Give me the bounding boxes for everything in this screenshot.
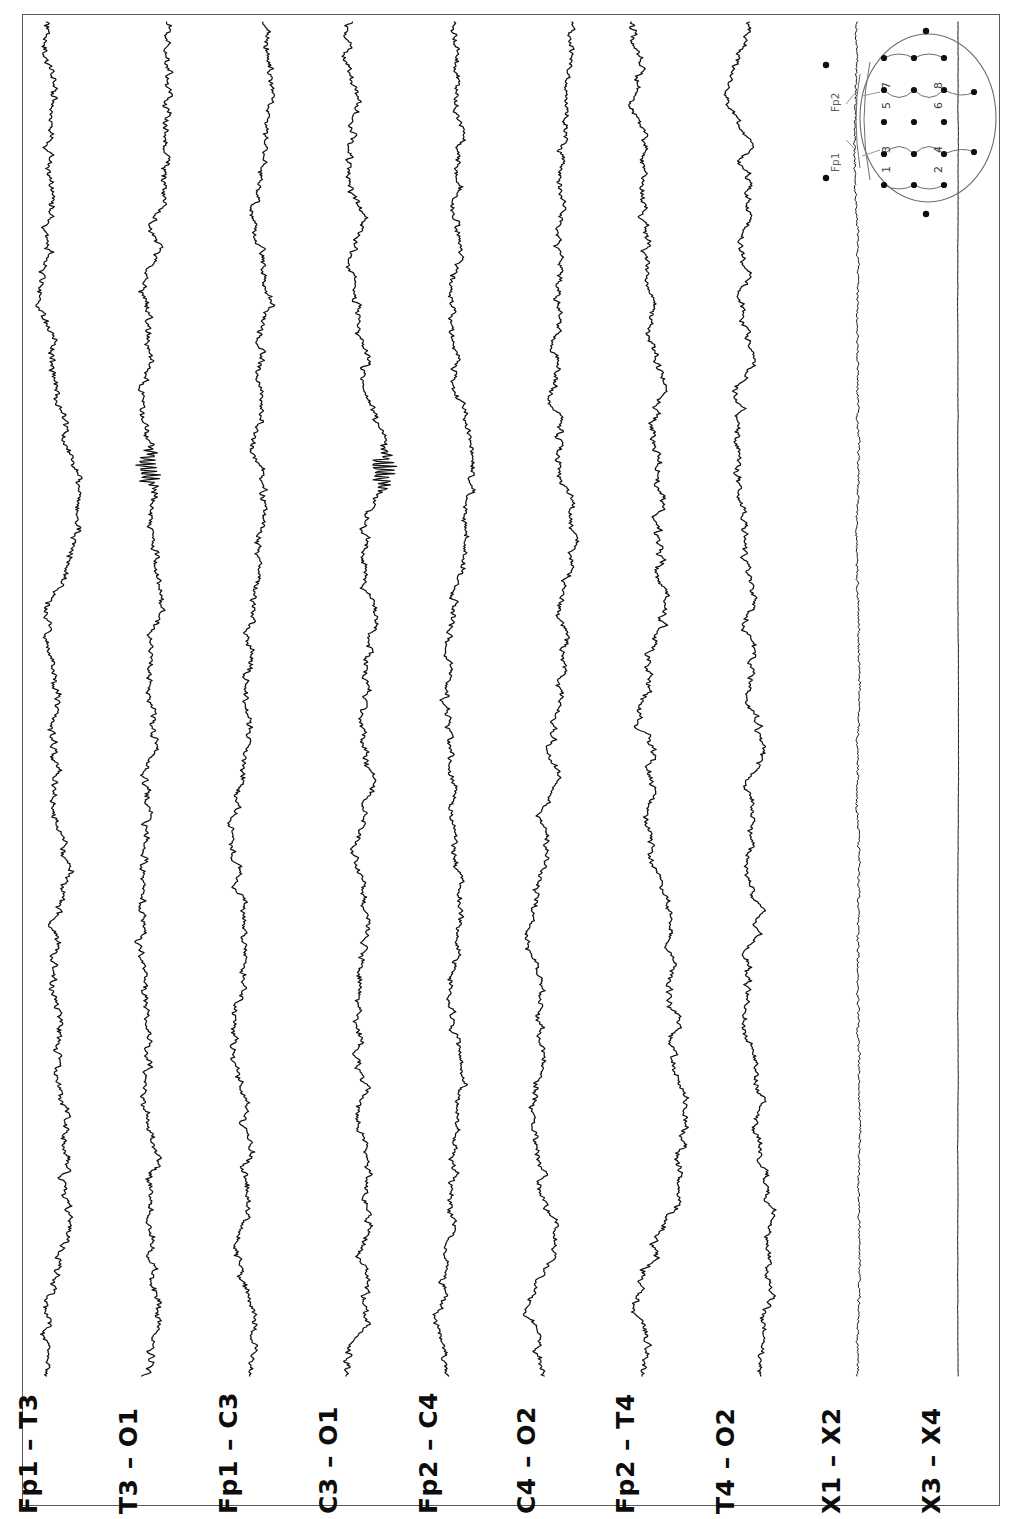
eeg-trace [135,22,173,1376]
electrode-dot [911,151,917,157]
derivation-number: 3 [880,146,893,153]
channel-label: C4 – O2 [512,1406,541,1514]
electrode-dot [971,149,977,155]
eeg-trace-canvas [0,0,1018,1519]
electrode-dot [911,182,917,188]
channel-label: Fp2 – C4 [414,1392,443,1514]
eeg-trace [523,22,578,1376]
electrode-dot [971,89,977,95]
electrode-dot [881,55,887,61]
eeg-trace [853,22,861,1376]
channel-label: C3 – O1 [314,1406,343,1514]
eeg-trace [724,22,776,1376]
montage-arc-4 [856,74,860,168]
eeg-trace [36,22,82,1376]
channel-label: Fp1 – C3 [214,1392,243,1514]
channel-label: T4 – O2 [711,1407,740,1514]
eeg-trace [228,22,275,1376]
fp2-leader-tail [846,92,856,104]
derivation-number: 6 [932,102,945,109]
head-map-group [823,28,996,217]
reference-marker-dot [923,28,929,34]
reference-marker-dot [823,62,829,68]
reference-marker-dot [823,175,829,181]
eeg-trace [629,22,689,1376]
derivation-number: 7 [880,82,893,89]
reference-marker-dot [923,211,929,217]
electrode-dot [881,119,887,125]
electrode-dot [911,55,917,61]
electrode-lead-label: Fp1 [829,153,841,172]
channel-label: Fp1 – T3 [14,1393,43,1514]
derivation-number: 5 [880,102,893,109]
derivation-number: 4 [932,146,945,153]
electrode-dot [911,87,917,93]
montage-arc-5 [864,62,870,180]
electrode-dot [941,119,947,125]
electrode-dot [941,182,947,188]
electrode-lead-label: Fp2 [829,93,841,112]
electrode-dot [881,182,887,188]
channel-label: T3 – O1 [114,1407,143,1514]
eeg-trace [433,22,475,1376]
electrode-dot [941,55,947,61]
derivation-number: 8 [932,82,945,89]
channel-label: X3 – X4 [917,1407,946,1514]
eeg-page: Fp1 – T3T3 – O1Fp1 – C3C3 – O1Fp2 – C4C4… [0,0,1018,1519]
electrode-dot [911,119,917,125]
eeg-trace [957,22,958,1376]
eeg-trace [342,22,397,1376]
montage-arc-1 [884,90,974,98]
eeg-traces-group [36,22,959,1376]
derivation-number: 1 [880,166,893,173]
channel-label: Fp2 – T4 [611,1393,640,1514]
head-outline [860,34,996,202]
derivation-number: 2 [932,166,945,173]
montage-arc-2 [884,147,974,155]
channel-label: X1 – X2 [817,1407,846,1514]
